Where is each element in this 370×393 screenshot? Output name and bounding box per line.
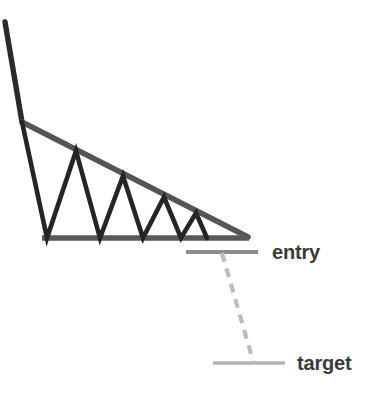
entry-label: entry: [272, 241, 321, 263]
canvas-background: [0, 0, 370, 393]
pattern-canvas: entry target: [0, 0, 370, 393]
chart-pattern-diagram: entry target: [0, 0, 370, 393]
target-label: target: [297, 352, 352, 374]
